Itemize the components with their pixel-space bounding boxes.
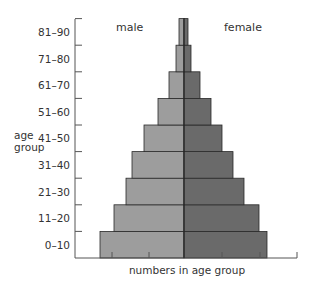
female-bar-81–90: [184, 19, 188, 46]
y-tick-label: 61–70: [38, 79, 70, 91]
male-bar-0–10: [100, 231, 184, 258]
male-bar-81–90: [179, 19, 184, 46]
male-bar-41–50: [144, 125, 184, 152]
male-bar-31–40: [132, 152, 184, 179]
female-bar-51–60: [184, 98, 211, 125]
male-bar-71–80: [176, 45, 184, 72]
female-bar-71–80: [184, 45, 191, 72]
y-axis-label-line1: age: [14, 129, 34, 141]
y-tick-label: 0–10: [45, 239, 70, 251]
y-tick-label: 81–90: [38, 26, 70, 38]
male-bar-11–20: [114, 205, 184, 232]
female-bar-11–20: [184, 205, 259, 232]
y-tick-label: 31–40: [38, 159, 70, 171]
male-bar-51–60: [158, 98, 184, 125]
population-pyramid-chart: 0–1011–2021–3031–4041–5051–6061–7071–808…: [0, 0, 311, 281]
female-bar-0–10: [184, 231, 267, 258]
male-bar-21–30: [126, 178, 184, 205]
female-bar-21–30: [184, 178, 244, 205]
y-tick-label: 11–20: [38, 212, 70, 224]
legend-male-label: male: [116, 21, 144, 34]
y-tick-label: 21–30: [38, 186, 70, 198]
y-tick-label: 71–80: [38, 53, 70, 65]
legend-female-label: female: [224, 21, 262, 34]
female-bar-31–40: [184, 152, 233, 179]
y-tick-label: 51–60: [38, 106, 70, 118]
female-bar-41–50: [184, 125, 222, 152]
x-axis-label: numbers in age group: [129, 264, 245, 276]
male-bar-61–70: [169, 72, 184, 99]
y-axis-label-line2: group: [14, 141, 45, 153]
female-bar-61–70: [184, 72, 200, 99]
